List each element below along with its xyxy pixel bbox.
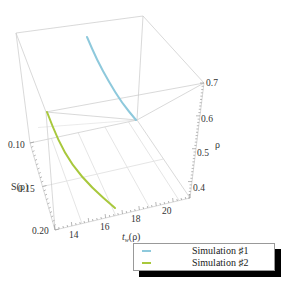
x-axis-tick [80, 222, 81, 224]
y-axis-tick [49, 207, 51, 208]
y-axis-tick [31, 146, 33, 147]
chart-3d: 0.100.150.20141618200.40.50.60.7 S(ρ) ρ … [0, 0, 291, 283]
legend-item-simulation-2: Simulation ♯2 [134, 257, 274, 269]
x-tick-label: 20 [162, 206, 172, 216]
box-edge [16, 33, 30, 143]
y-axis-tick [46, 199, 48, 200]
x-axis-tick [139, 206, 140, 210]
y-axis-title: S(ρ) [11, 181, 28, 193]
box-edge [143, 16, 204, 83]
y-axis-tick [34, 155, 36, 156]
y-axis-tick [33, 151, 35, 152]
y-axis-tick [50, 212, 52, 213]
y-axis-tick [36, 164, 38, 165]
legend-label-simulation-1: Simulation ♯1 [192, 245, 248, 257]
x-axis-tick [105, 214, 106, 218]
y-axis-tick [45, 194, 47, 195]
legend-swatch-simulation-1 [142, 250, 151, 252]
y-axis-tick [38, 168, 40, 169]
box-edge [137, 120, 190, 198]
x-axis-tick [185, 197, 186, 199]
legend-item-simulation-1: Simulation ♯1 [134, 245, 274, 257]
x-axis-tick [126, 211, 127, 213]
x-axis-tick [152, 205, 153, 207]
x-axis-tick [130, 210, 131, 212]
y-axis-tick [35, 159, 37, 160]
x-axis-tick [76, 223, 77, 225]
x-axis-tick [122, 210, 123, 214]
legend: Simulation ♯1 Simulation ♯2 [133, 243, 275, 271]
z-tick-label: 0.6 [201, 114, 213, 124]
x-tick-label: 14 [69, 230, 79, 240]
x-axis-tick [177, 199, 178, 201]
series-line-simulation-2 [47, 112, 115, 208]
z-axis-title: ρ [215, 139, 220, 150]
bounding-box [16, 16, 204, 230]
x-axis-tick [109, 215, 110, 217]
legend-label-simulation-2: Simulation ♯2 [192, 257, 248, 269]
y-axis-tick [44, 190, 46, 191]
x-axis-tick [101, 217, 102, 219]
z-tick-label: 0.5 [197, 148, 209, 158]
x-axis-tick [97, 218, 98, 220]
box-edge [190, 83, 204, 198]
series-line-simulation-1 [87, 37, 136, 120]
y-axis-tick [40, 177, 42, 178]
x-axis-tick [168, 201, 169, 203]
x-tick-label: 16 [100, 222, 110, 232]
x-tick-label: 18 [131, 214, 141, 224]
x-axis-tick [71, 222, 72, 226]
box-edge [16, 16, 143, 33]
y-axis-tick [51, 216, 53, 217]
x-axis-tick [135, 209, 136, 211]
grid-lines [38, 120, 179, 224]
x-axis-tick [160, 203, 161, 205]
axis-ticks [30, 83, 204, 230]
x-axis-title: tw(ρ) [122, 231, 140, 243]
x-axis-tick [181, 198, 182, 200]
x-axis-tick [164, 202, 165, 204]
x-axis-tick [92, 219, 93, 221]
x-axis-tick [156, 202, 157, 206]
x-axis-tick [114, 214, 115, 216]
y-axis-tick [48, 203, 50, 204]
x-axis-tick [67, 225, 68, 227]
y-tick-label: 0.10 [8, 140, 25, 150]
z-tick-label: 0.7 [206, 78, 218, 88]
x-axis-tick [173, 198, 174, 202]
legend-swatch-simulation-2 [142, 262, 151, 264]
tick-labels: 0.100.150.20141618200.40.50.60.7 [8, 78, 218, 240]
box-edge [30, 120, 137, 143]
box-edge [16, 33, 46, 112]
z-tick-label: 0.4 [193, 183, 205, 193]
x-axis-tick [118, 213, 119, 215]
box-edge [46, 112, 137, 120]
x-axis-tick [143, 207, 144, 209]
x-axis-tick [88, 218, 89, 222]
x-axis-tick [63, 226, 64, 228]
y-tick-label: 0.20 [32, 226, 49, 236]
x-axis-tick [147, 206, 148, 208]
x-axis-tick [59, 227, 60, 229]
y-axis-tick [39, 172, 41, 173]
y-axis-tick [41, 181, 43, 182]
x-axis-tick [84, 221, 85, 223]
box-edge [137, 16, 143, 120]
box-edge [137, 83, 204, 120]
x-axis-title-suffix: (ρ) [129, 231, 141, 243]
